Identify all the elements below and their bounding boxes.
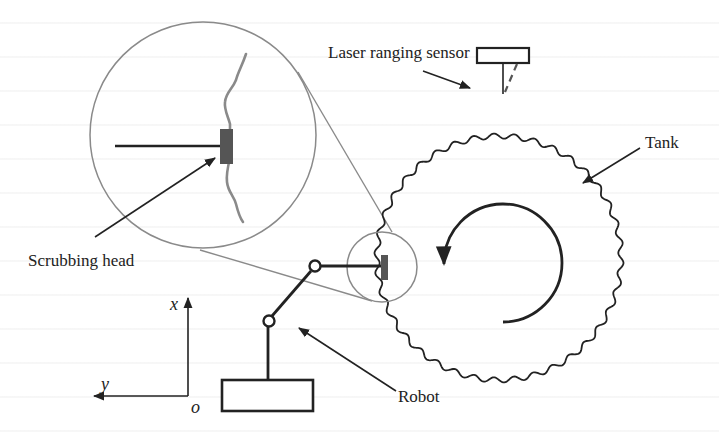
scrubbing-head-detail (220, 129, 233, 164)
robot-joint-shoulder (310, 261, 321, 272)
axis-y-label: y (99, 374, 109, 394)
robot-arm (222, 255, 388, 411)
callout-arrows (95, 71, 640, 391)
scrubbing-head (381, 255, 388, 280)
axis-origin-label: o (191, 397, 200, 417)
tank-outline (375, 134, 624, 383)
tank-label: Tank (645, 133, 679, 152)
laser-sensor-label: Laser ranging sensor (328, 43, 470, 62)
rotation-arrow-icon (444, 204, 562, 322)
laser-ranging-sensor (477, 48, 529, 94)
scrubbing-head-label: Scrubbing head (28, 251, 135, 270)
robot-label: Robot (398, 387, 440, 406)
axis-x-label: x (169, 294, 178, 314)
tank-callout (583, 148, 640, 183)
robot-base (222, 380, 313, 411)
tank-cleaning-robot-diagram: x y o Laser ranging sensor Tank Scrubbin… (0, 0, 719, 439)
robot-joint-elbow (264, 316, 275, 327)
laser-sensor-callout (423, 71, 470, 88)
magnified-detail-view (90, 22, 316, 248)
scrubbing-head-callout (95, 158, 215, 237)
